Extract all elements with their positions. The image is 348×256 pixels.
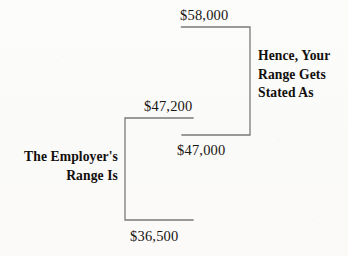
- employer-range-bracket-path: [125, 118, 193, 220]
- callout-employer-range-line-1: The Employer's: [8, 148, 118, 167]
- callout-stated-range-line-1: Hence, Your: [258, 47, 346, 66]
- callout-employer-range-line-2: Range Is: [8, 167, 118, 186]
- bracket-lines: [0, 0, 348, 256]
- amount-label-employer-min: $36,500: [130, 228, 179, 244]
- stated-range-bracket-path: [182, 27, 251, 135]
- amount-label-upper-candidate-max: $47,200: [144, 98, 193, 114]
- callout-stated-range-line-3: Stated As: [258, 84, 346, 103]
- salary-range-diagram: $58,000 $47,200 $47,000 $36,500 The Empl…: [0, 0, 348, 256]
- callout-stated-range-line-2: Range Gets: [258, 66, 346, 85]
- callout-employer-range: The Employer's Range Is: [8, 148, 118, 185]
- amount-label-employer-mid: $47,000: [177, 142, 226, 158]
- amount-label-top-employer-max: $58,000: [180, 7, 229, 23]
- callout-stated-range: Hence, Your Range Gets Stated As: [258, 47, 346, 103]
